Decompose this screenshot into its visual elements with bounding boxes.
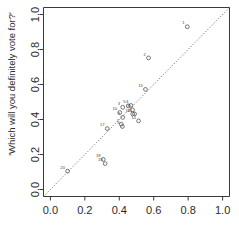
x-axis-tick-labels: 0.00.20.40.60.81.0 xyxy=(43,204,231,216)
y-axis-tick-labels: 0.00.20.40.60.81.0 xyxy=(29,7,41,197)
identity-line xyxy=(44,8,230,197)
x-tick-label-0: 0.0 xyxy=(43,204,58,216)
data-point xyxy=(144,88,148,92)
data-point-label: 14 xyxy=(131,115,136,120)
identity-reference-line xyxy=(44,8,230,197)
data-point-label: 20 xyxy=(60,165,65,170)
data-point-label: 3 xyxy=(118,101,121,106)
plot-canvas: 'Which will you definitely vote for?' 0.… xyxy=(0,0,239,249)
y-axis-title: 'Which will you definitely vote for?' xyxy=(6,12,17,156)
y-axis-title-text: 'Which will you definitely vote for?' xyxy=(6,12,17,156)
data-point-label: 15 xyxy=(138,83,143,88)
y-tick-label-5: 1.0 xyxy=(29,7,41,22)
data-point-label: 11 xyxy=(128,108,133,113)
data-point xyxy=(121,105,125,109)
data-point xyxy=(105,127,109,131)
scatter-plot-figure: 'Which will you definitely vote for?' 0.… xyxy=(0,0,239,249)
data-point-label: 19 xyxy=(98,157,103,162)
x-tick-label-2: 0.4 xyxy=(112,204,127,216)
data-point xyxy=(137,119,141,123)
y-tick-label-3: 0.6 xyxy=(29,77,41,92)
x-tick-label-5: 1.0 xyxy=(215,204,230,216)
y-tick-label-2: 0.4 xyxy=(29,112,41,127)
data-point xyxy=(66,169,70,173)
data-point-labels: 121545381012119147617181920 xyxy=(60,20,185,169)
x-tick-label-1: 0.2 xyxy=(77,204,92,216)
data-point-label: 1 xyxy=(182,20,185,25)
data-point xyxy=(103,162,107,166)
data-point-label: 17 xyxy=(100,122,105,127)
data-point xyxy=(147,56,151,60)
y-tick-label-0: 0.0 xyxy=(29,182,41,197)
y-tick-label-4: 0.8 xyxy=(29,42,41,57)
x-tick-label-3: 0.6 xyxy=(146,204,161,216)
x-tick-label-4: 0.8 xyxy=(181,204,196,216)
data-point-label: 9 xyxy=(118,111,121,116)
y-tick-label-1: 0.2 xyxy=(29,147,41,162)
data-point-label: 2 xyxy=(144,52,147,57)
data-point xyxy=(185,25,189,29)
